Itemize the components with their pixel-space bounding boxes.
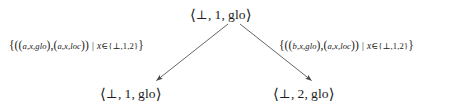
node-root-close-bracket: ⟩	[246, 7, 252, 23]
node-left-component-index: 1	[125, 86, 132, 101]
node-right-close-bracket: ⟩	[329, 86, 335, 102]
edge-right-first-tuple: b,x,glo	[292, 41, 316, 51]
edge-left-mid: ),(	[47, 39, 58, 51]
edge-arrow-right	[240, 24, 312, 81]
edge-right-bar: |	[362, 41, 364, 51]
edge-right-mid: ),(	[317, 39, 328, 51]
edge-right-second-tuple: a,x,loc	[327, 41, 351, 51]
node-root-component-index: 1	[215, 7, 222, 22]
node-right-component-index: 2	[298, 86, 305, 101]
node-root-component-scope: glo	[228, 7, 246, 22]
edge-left-first-tuple: a,x,glo	[22, 41, 46, 51]
node-left-component-bottom: ⊥	[106, 87, 118, 101]
edge-left-close: }	[138, 39, 144, 51]
node-right-component-scope: glo	[311, 86, 329, 101]
node-left-component-scope: glo	[138, 86, 156, 101]
transition-diagram: ⟨⊥, 1, glo⟩ ⟨⊥, 1, glo⟩ ⟨⊥, 2, glo⟩ {((a…	[0, 0, 466, 108]
edge-left-close-tuple: ))	[81, 39, 89, 51]
node-right-successor-state: ⟨⊥, 2, glo⟩	[273, 84, 335, 102]
edge-right-close-tuple: ))	[351, 39, 359, 51]
edge-left-bar: |	[92, 41, 94, 51]
edge-arrow-left	[157, 24, 229, 81]
edge-right-open: {((	[279, 39, 292, 51]
edge-label-right: {((b,x,glo),(a,x,loc))|x∈{⊥,1,2}}	[279, 39, 414, 51]
node-left-close-bracket: ⟩	[156, 86, 162, 102]
edge-label-left: {((a,x,glo),(a,x,loc))|x∈{⊥,1,2}}	[9, 39, 144, 51]
edge-left-second-tuple: a,x,loc	[57, 41, 81, 51]
edge-right-set: {⊥,1,2}	[378, 41, 408, 51]
edge-left-open: {((	[9, 39, 22, 51]
node-right-component-bottom: ⊥	[279, 87, 291, 101]
node-root-state: ⟨⊥, 1, glo⟩	[190, 5, 252, 23]
node-root-component-bottom: ⊥	[196, 8, 208, 22]
edge-left-set: {⊥,1,2}	[108, 41, 138, 51]
node-left-successor-state: ⟨⊥, 1, glo⟩	[100, 84, 162, 102]
edge-right-close: }	[408, 39, 414, 51]
